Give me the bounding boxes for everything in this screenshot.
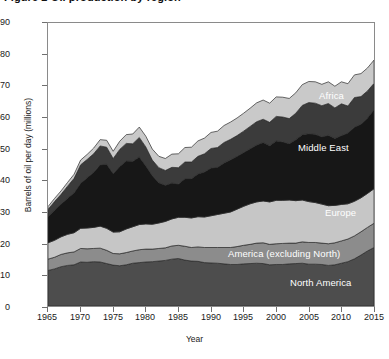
series-label-america-ex-north: America (excluding North) — [228, 248, 340, 259]
y-tick-label-0: 0 — [0, 303, 10, 312]
x-tick-mark — [243, 307, 244, 312]
y-tick-label-90: 90 — [0, 18, 10, 27]
series-label-middle-east: Middle East — [298, 142, 349, 153]
y-tick-label-60: 60 — [0, 113, 10, 122]
x-tick-mark — [374, 307, 375, 312]
x-tick-mark — [211, 307, 212, 312]
x-tick-mark — [80, 307, 81, 312]
y-tick-label-50: 50 — [0, 145, 10, 154]
x-tick-mark — [47, 307, 48, 312]
series-label-asia: Asia — [330, 53, 349, 64]
x-tick-mark — [309, 307, 310, 312]
y-axis-title: Barrels of oil per day (millions) — [23, 75, 33, 235]
series-label-africa: Africa — [319, 90, 344, 101]
y-tick-label-10: 10 — [0, 271, 10, 280]
x-tick-mark — [276, 307, 277, 312]
y-tick-label-80: 80 — [0, 50, 10, 59]
x-tick-mark — [113, 307, 114, 312]
x-tick-label-2015: 2015 — [354, 312, 389, 322]
x-tick-mark — [178, 307, 179, 312]
series-label-europe: Europe — [325, 207, 356, 218]
plot-area — [47, 22, 375, 307]
y-tick-label-20: 20 — [0, 240, 10, 249]
x-tick-mark — [341, 307, 342, 312]
y-tick-label-70: 70 — [0, 81, 10, 90]
figure-container: Figure 2 Oil production by region Barrel… — [0, 0, 389, 359]
x-tick-mark — [145, 307, 146, 312]
y-tick-label-40: 40 — [0, 176, 10, 185]
figure-title: Figure 2 Oil production by region — [4, 0, 181, 3]
x-axis-title: Year — [0, 334, 389, 344]
y-tick-label-30: 30 — [0, 208, 10, 217]
series-label-north-america: North America — [290, 277, 352, 288]
stacked-area-svg — [48, 23, 374, 306]
